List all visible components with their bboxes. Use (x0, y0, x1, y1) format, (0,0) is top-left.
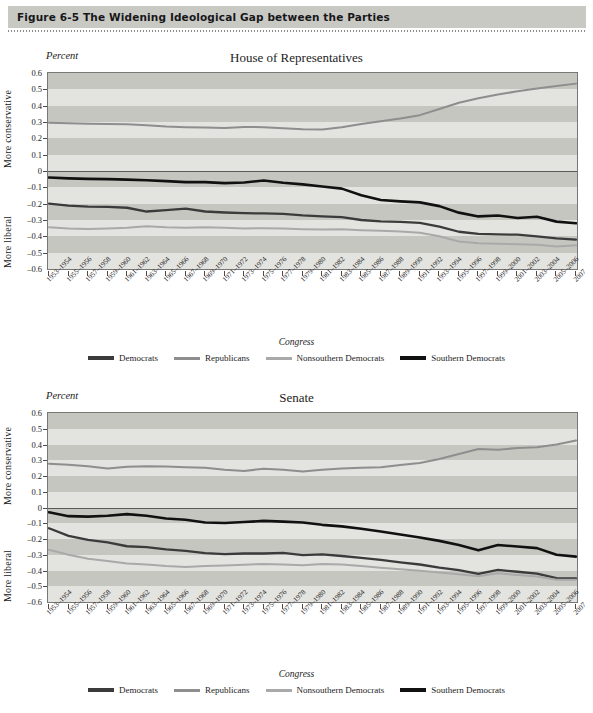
y-axis-tick-label: –0.4 (27, 231, 42, 241)
legend-label: Republicans (205, 353, 250, 363)
legend-senate: DemocratsRepublicansNonsouthern Democrat… (0, 685, 593, 695)
legend-label: Southern Democrats (431, 353, 505, 363)
legend-label: Democrats (119, 685, 158, 695)
series-layer (48, 413, 577, 602)
chart-title-senate: Senate (0, 390, 593, 406)
legend-item: Republicans (174, 353, 250, 363)
legend-item: Republicans (174, 685, 250, 695)
y-axis-tick-label: –0.3 (27, 550, 42, 560)
legend-house: DemocratsRepublicansNonsouthern Democrat… (0, 353, 593, 363)
series-line-democrats (49, 204, 576, 240)
y-axis-tick-label: 0.3 (31, 455, 42, 465)
y-axis-tick-label: –0.6 (27, 597, 42, 607)
y-axis-tick-label: –0.5 (27, 581, 42, 591)
x-axis-labels-house: 1953–19541955–19561957–19581959–19601961… (0, 278, 593, 338)
series-line-democrats (49, 528, 576, 578)
legend-swatch (88, 356, 114, 359)
y-axis-direction-top-house: More conservative (2, 76, 13, 168)
y-axis-tick-label: –0.4 (27, 566, 42, 576)
chart-panel-senate: Percent Senate More conservative More li… (0, 380, 593, 710)
plot-area-house (47, 72, 578, 270)
legend-swatch (400, 356, 426, 360)
legend-item: Nonsouthern Democrats (266, 353, 385, 363)
legend-swatch (174, 357, 200, 360)
plot-area-senate (47, 412, 578, 603)
legend-swatch (174, 689, 200, 692)
legend-swatch (266, 357, 292, 360)
y-axis-tick-label: 0.1 (31, 150, 42, 160)
legend-label: Nonsouthern Democrats (297, 685, 385, 695)
y-axis-tick-label: –0.6 (27, 264, 42, 274)
y-axis-tick-label: 0.6 (31, 68, 42, 78)
legend-swatch (88, 688, 114, 691)
legend-label: Southern Democrats (431, 685, 505, 695)
y-axis-direction-bottom-senate: More liberal (2, 526, 13, 602)
y-axis-tick-label: –0.1 (27, 518, 42, 528)
chart-title-house: House of Representatives (0, 50, 593, 66)
series-line-republicans (49, 441, 576, 472)
y-axis-tick-label: 0 (38, 166, 42, 176)
x-axis-title-senate: Congress (0, 669, 593, 679)
y-axis-tick-label: 0.1 (31, 487, 42, 497)
x-axis-title-house: Congress (0, 337, 593, 347)
y-axis-direction-bottom-house: More liberal (2, 190, 13, 268)
figure-divider (8, 30, 586, 32)
legend-swatch (266, 689, 292, 692)
figure-banner: Figure 6-5 The Widening Ideological Gap … (8, 6, 586, 28)
y-axis-tick-label: 0.6 (31, 408, 42, 418)
series-line-southern-democrats (49, 512, 576, 556)
legend-item: Southern Democrats (400, 685, 505, 695)
series-layer (48, 73, 577, 269)
legend-label: Nonsouthern Democrats (297, 353, 385, 363)
y-axis-tick-label: 0.5 (31, 84, 42, 94)
series-line-nonsouthern-democrats (49, 226, 576, 246)
x-axis-labels-senate: 1953–19541955–19561957–19581959–19601961… (0, 611, 593, 671)
chart-panel-house: Percent House of Representatives More co… (0, 40, 593, 375)
y-axis-tick-label: –0.2 (27, 534, 42, 544)
y-axis-tick-label: –0.2 (27, 199, 42, 209)
y-axis-tick-label: –0.1 (27, 182, 42, 192)
y-axis-tick-label: 0.3 (31, 117, 42, 127)
series-line-republicans (49, 84, 576, 130)
y-axis-direction-top-senate: More conservative (2, 415, 13, 505)
y-axis-tick-label: 0.5 (31, 424, 42, 434)
legend-item: Democrats (88, 685, 158, 695)
legend-item: Democrats (88, 353, 158, 363)
y-axis-tick-label: 0.4 (31, 101, 42, 111)
figure-title: Figure 6-5 The Widening Ideological Gap … (8, 11, 390, 23)
legend-label: Democrats (119, 353, 158, 363)
legend-label: Republicans (205, 685, 250, 695)
y-axis-tick-label: 0.2 (31, 471, 42, 481)
y-axis-tick-label: –0.5 (27, 248, 42, 258)
legend-swatch (400, 688, 426, 692)
y-axis-tick-label: –0.3 (27, 215, 42, 225)
y-axis-tick-label: 0.2 (31, 133, 42, 143)
legend-item: Nonsouthern Democrats (266, 685, 385, 695)
y-axis-tick-label: 0.4 (31, 440, 42, 450)
legend-item: Southern Democrats (400, 353, 505, 363)
y-axis-tick-label: 0 (38, 503, 42, 513)
